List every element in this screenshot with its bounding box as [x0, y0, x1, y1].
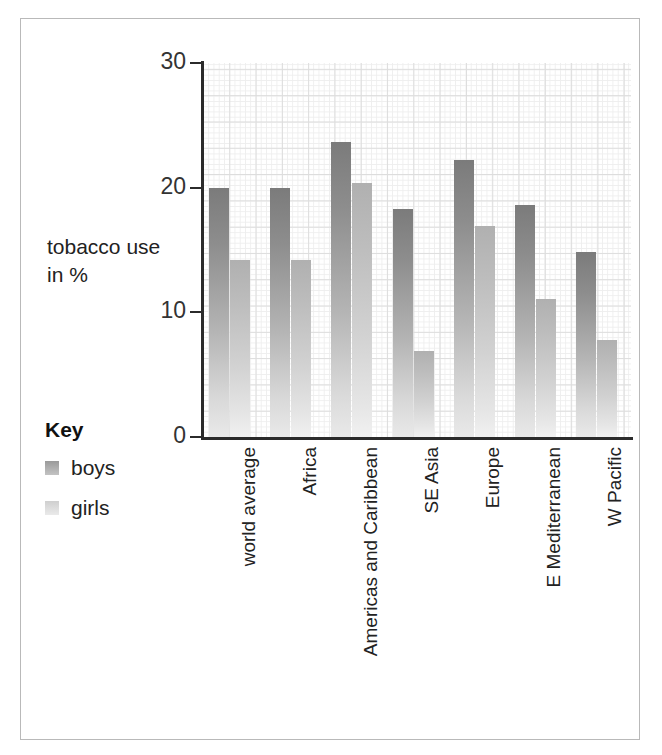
bar-girls-0: [230, 260, 250, 437]
x-axis-label: E Mediterranean: [543, 447, 565, 587]
legend-label-boys: boys: [71, 456, 115, 480]
y-axis-title-line1: tobacco use: [47, 233, 197, 261]
bar-boys-2: [331, 142, 351, 437]
bar-girls-3: [414, 351, 434, 437]
legend-title: Key: [45, 418, 115, 442]
x-axis-label: W Pacific: [604, 447, 626, 526]
x-axis-label: Americas and Caribbean: [360, 447, 382, 656]
y-axis-title-line2: in %: [47, 261, 197, 289]
x-axis-line: [201, 437, 633, 440]
legend: Key boys girls: [45, 418, 115, 536]
y-axis-title: tobacco use in %: [47, 233, 197, 289]
legend-item-boys: boys: [45, 456, 115, 480]
x-axis-label: SE Asia: [421, 447, 443, 514]
bar-girls-5: [536, 299, 556, 437]
legend-label-girls: girls: [71, 496, 110, 520]
bar-boys-6: [576, 252, 596, 437]
legend-item-girls: girls: [45, 496, 115, 520]
x-axis-label: Europe: [482, 447, 504, 508]
bar-girls-2: [352, 183, 372, 437]
y-tick-mark: [190, 187, 201, 189]
bar-girls-6: [597, 340, 617, 437]
y-tick-label: 20: [126, 173, 186, 200]
bar-boys-4: [454, 160, 474, 437]
y-tick-label: 30: [126, 48, 186, 75]
legend-swatch-girls: [45, 501, 59, 515]
bar-boys-3: [393, 209, 413, 437]
x-axis-label: world average: [238, 447, 260, 566]
bar-boys-0: [209, 188, 229, 437]
bar-girls-1: [291, 260, 311, 437]
bar-boys-5: [515, 205, 535, 437]
y-axis-line: [201, 61, 204, 439]
x-axis-label: Africa: [299, 447, 321, 496]
y-tick-mark: [190, 62, 201, 64]
y-tick-label: 0: [126, 422, 186, 449]
bar-girls-4: [475, 226, 495, 437]
legend-swatch-boys: [45, 461, 59, 475]
y-tick-mark: [190, 311, 201, 313]
y-tick-label: 10: [126, 297, 186, 324]
bar-boys-1: [270, 188, 290, 437]
y-tick-mark: [190, 436, 201, 438]
